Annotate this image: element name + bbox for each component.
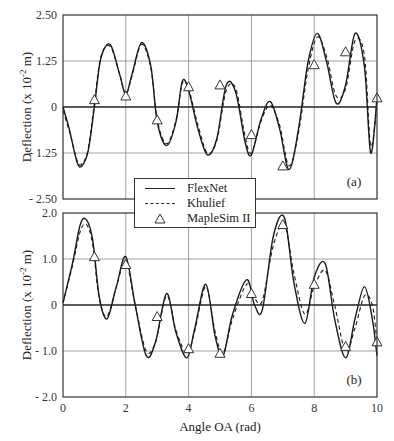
legend-label: Khulief: [187, 196, 225, 211]
triangle-marker: [89, 95, 99, 104]
legend: FlexNet Khulief MapleSim II: [134, 178, 256, 228]
y-tick-label: - 1.0: [35, 344, 57, 358]
y-axis-label-a: Deflection (x 10-2 m): [18, 52, 34, 162]
x-tick-label: 6: [248, 401, 254, 415]
x-tick-label: 4: [186, 401, 192, 415]
y-tick-label: 0: [51, 100, 57, 114]
triangle-marker: [246, 130, 256, 139]
khulief-line: [63, 37, 377, 166]
flexnet-line: [63, 33, 377, 170]
y-tick-label: - 2.50: [29, 192, 57, 206]
flexnet-line: [63, 215, 377, 358]
y-tick-label: - 2.0: [35, 390, 57, 404]
panel-a: - 2.50- 1.2501.252.50: [29, 8, 382, 206]
y-tick-label: 1.0: [42, 252, 57, 266]
y-tick-label: 0: [51, 298, 57, 312]
panel-b-label: (b): [346, 372, 361, 387]
x-tick-label: 0: [60, 401, 66, 415]
x-tick-label: 2: [123, 401, 129, 415]
triangle-marker-icon: [154, 213, 166, 224]
legend-item-khulief: Khulief: [135, 196, 255, 211]
legend-label: MapleSim II: [187, 211, 251, 226]
legend-label: FlexNet: [187, 181, 227, 196]
triangle-marker: [246, 289, 256, 298]
legend-item-flexnet: FlexNet: [135, 181, 255, 196]
panel-a-label: (a): [347, 174, 361, 189]
triangle-marker: [121, 91, 131, 100]
triangle-marker: [184, 344, 194, 353]
solid-line-swatch: [145, 188, 175, 189]
legend-item-maplesim: MapleSim II: [135, 211, 255, 226]
panel-b: - 2.0- 1.001.02.00246810: [35, 206, 383, 415]
x-tick-label: 8: [311, 401, 317, 415]
x-axis-label: Angle OA (rad): [179, 419, 261, 434]
y-axis-label-b: Deflection (x 10-2 m): [18, 250, 34, 360]
triangle-marker: [184, 82, 194, 91]
triangle-marker: [215, 80, 225, 89]
dashed-line-swatch: [145, 203, 175, 204]
y-tick-label: 2.50: [36, 8, 57, 22]
y-tick-label: 1.25: [36, 54, 57, 68]
triangle-marker: [89, 252, 99, 261]
x-tick-label: 10: [371, 401, 383, 415]
triangle-marker: [152, 115, 162, 124]
triangle-marker: [215, 348, 225, 357]
triangle-marker: [309, 279, 319, 288]
triangle-marker: [341, 47, 351, 56]
y-tick-label: 2.0: [42, 206, 57, 220]
